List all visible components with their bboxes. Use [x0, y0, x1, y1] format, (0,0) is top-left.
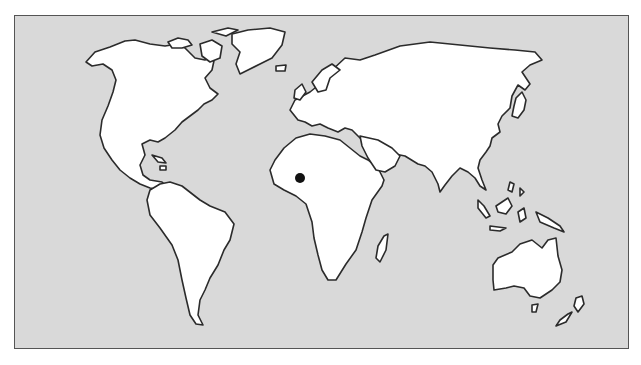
indonesia: [478, 198, 564, 232]
caribbean: [152, 155, 166, 170]
philippines: [508, 182, 524, 196]
australia: [493, 238, 562, 298]
south-america: [147, 182, 234, 325]
tasmania: [532, 304, 538, 312]
location-marker: [295, 173, 305, 183]
world-map: [0, 0, 641, 365]
madagascar: [376, 234, 388, 262]
north-america: [86, 40, 218, 190]
new-zealand: [556, 296, 584, 326]
japan: [512, 92, 526, 118]
